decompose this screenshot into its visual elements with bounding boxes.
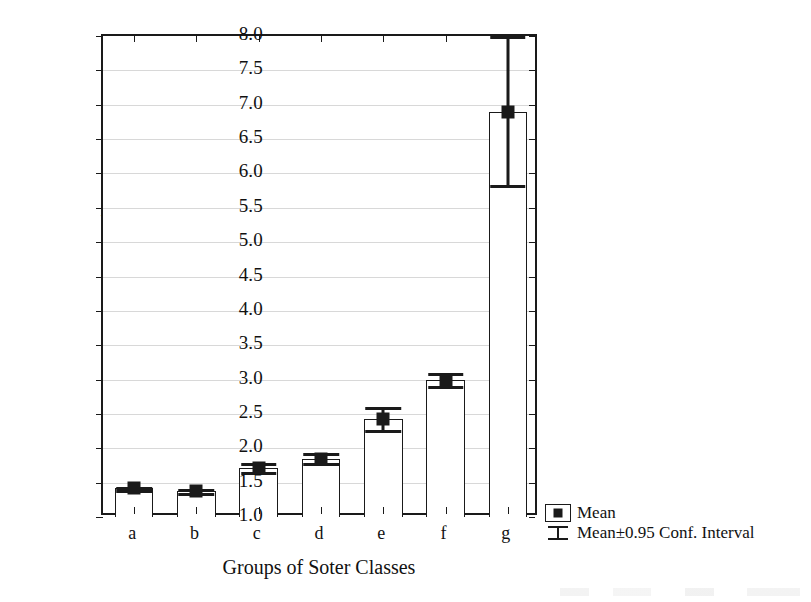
y-axis-tick-label: 2.0 bbox=[203, 435, 263, 457]
y-axis-tick bbox=[96, 414, 103, 415]
x-axis-tick bbox=[134, 507, 135, 514]
mean-marker-e bbox=[377, 413, 390, 426]
y-axis-tick-right bbox=[529, 173, 535, 174]
x-axis-category-label-c: c bbox=[253, 523, 261, 544]
error-bar-cap-upper-e bbox=[366, 407, 402, 410]
y-axis-tick-right bbox=[529, 483, 535, 484]
conf-interval-key-icon bbox=[545, 524, 571, 542]
y-axis-tick bbox=[96, 517, 103, 518]
x-axis-category-label-a: a bbox=[128, 523, 136, 544]
y-axis-tick-label: 6.0 bbox=[203, 160, 263, 182]
y-axis-tick-right bbox=[529, 517, 535, 518]
gridline bbox=[103, 311, 535, 312]
mean-marker-a bbox=[128, 482, 141, 495]
x-axis-category-label-e: e bbox=[377, 523, 385, 544]
gridline bbox=[103, 345, 535, 346]
y-axis-tick-right bbox=[529, 70, 535, 71]
x-axis-tick-top bbox=[134, 36, 135, 42]
y-axis-tick-right bbox=[529, 414, 535, 415]
y-axis-tick bbox=[96, 70, 103, 71]
plot-area bbox=[101, 34, 537, 515]
y-axis-tick-label: 8.0 bbox=[203, 23, 263, 45]
y-axis-tick-right bbox=[529, 139, 535, 140]
y-axis-tick bbox=[96, 345, 103, 346]
x-axis-tick bbox=[446, 507, 447, 514]
x-axis-category-label-g: g bbox=[501, 523, 510, 544]
y-axis-tick bbox=[96, 448, 103, 449]
y-axis-tick bbox=[96, 36, 103, 37]
mean-marker-d bbox=[315, 452, 328, 465]
gridline bbox=[103, 242, 535, 243]
y-axis-tick-label: 4.0 bbox=[203, 298, 263, 320]
y-axis-tick bbox=[96, 105, 103, 106]
y-axis-tick-label: 7.0 bbox=[203, 92, 263, 114]
x-axis-category-label-f: f bbox=[441, 523, 447, 544]
mean-marker-key-icon bbox=[545, 504, 571, 522]
chart-legend: Mean Mean±0.95 Conf. Interval bbox=[545, 503, 754, 543]
x-axis-tick-top bbox=[446, 36, 447, 42]
y-axis-tick-label: 7.5 bbox=[203, 57, 263, 79]
x-axis-tick bbox=[383, 507, 384, 514]
legend-label-mean: Mean bbox=[577, 503, 616, 523]
y-axis-tick bbox=[96, 483, 103, 484]
x-axis-tick-top bbox=[383, 36, 384, 42]
y-axis-tick-right bbox=[529, 242, 535, 243]
mean-marker-b bbox=[190, 484, 203, 497]
y-axis-tick-label: 1.5 bbox=[203, 470, 263, 492]
y-axis-tick-right bbox=[529, 36, 535, 37]
bar-e bbox=[364, 419, 403, 517]
y-axis-tick-label: 5.5 bbox=[203, 195, 263, 217]
legend-item-conf-interval: Mean±0.95 Conf. Interval bbox=[545, 523, 754, 543]
y-axis-tick-label: 3.5 bbox=[203, 332, 263, 354]
y-axis-tick bbox=[96, 277, 103, 278]
legend-item-mean: Mean bbox=[545, 503, 754, 523]
y-axis-tick-label: 5.0 bbox=[203, 229, 263, 251]
y-axis-tick bbox=[96, 208, 103, 209]
y-axis-tick-label: 4.5 bbox=[203, 264, 263, 286]
y-axis-tick-right bbox=[529, 345, 535, 346]
y-axis-tick-right bbox=[529, 105, 535, 106]
x-axis-tick-top bbox=[321, 36, 322, 42]
y-axis-tick-right bbox=[529, 277, 535, 278]
x-axis-title: Groups of Soter Classes bbox=[101, 556, 537, 579]
x-axis-tick bbox=[196, 507, 197, 514]
mean-marker-f bbox=[439, 373, 452, 386]
mean-marker-g bbox=[501, 105, 514, 118]
gridline bbox=[103, 380, 535, 381]
y-axis-tick-right bbox=[529, 448, 535, 449]
y-axis-tick-label: 2.5 bbox=[203, 401, 263, 423]
x-axis-tick bbox=[508, 507, 509, 514]
y-axis-tick bbox=[96, 311, 103, 312]
y-axis-tick bbox=[96, 139, 103, 140]
x-axis-tick-top bbox=[196, 36, 197, 42]
y-axis-tick-label: 6.5 bbox=[203, 126, 263, 148]
legend-label-conf-interval: Mean±0.95 Conf. Interval bbox=[577, 523, 754, 543]
x-axis-category-label-d: d bbox=[315, 523, 324, 544]
figure: SOC Content (dag kg-1) Groups of Soter C… bbox=[0, 0, 811, 602]
y-axis-tick-right bbox=[529, 208, 535, 209]
y-axis-tick bbox=[96, 380, 103, 381]
y-axis-tick bbox=[96, 173, 103, 174]
gridline bbox=[103, 208, 535, 209]
y-axis-tick-right bbox=[529, 380, 535, 381]
error-bar-cap-lower-g bbox=[490, 185, 526, 188]
scan-artifact bbox=[560, 588, 800, 596]
error-bar-cap-lower-e bbox=[366, 430, 402, 433]
x-axis-tick bbox=[321, 507, 322, 514]
y-axis-tick-right bbox=[529, 311, 535, 312]
gridline bbox=[103, 173, 535, 174]
gridline bbox=[103, 105, 535, 106]
y-axis-tick bbox=[96, 242, 103, 243]
gridline bbox=[103, 277, 535, 278]
gridline bbox=[103, 70, 535, 71]
error-bar-cap-lower-f bbox=[428, 386, 464, 389]
gridline bbox=[103, 414, 535, 415]
bar-f bbox=[426, 380, 465, 517]
x-axis-tick-top bbox=[508, 36, 509, 42]
gridline bbox=[103, 448, 535, 449]
gridline bbox=[103, 139, 535, 140]
x-axis-category-label-b: b bbox=[190, 523, 199, 544]
y-axis-tick-label: 3.0 bbox=[203, 367, 263, 389]
